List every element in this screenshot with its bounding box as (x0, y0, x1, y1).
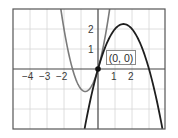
x-tick-label: −3 (39, 71, 51, 82)
y-tick-labels: 2 1 (88, 24, 94, 55)
x-tick-labels: −4 −3 −2 1 2 (22, 71, 134, 82)
curve-parabola-down (85, 24, 163, 129)
y-tick-label: 2 (88, 24, 94, 35)
x-tick-label: 2 (128, 71, 134, 82)
curve-parabola-up (61, 9, 110, 92)
point-label: (0, 0) (106, 50, 136, 65)
y-tick-label: 1 (88, 44, 94, 55)
origin-point-marker (95, 66, 101, 72)
graph: −4 −3 −2 1 2 2 1 (0, 0, 178, 138)
x-tick-label: −2 (56, 71, 68, 82)
x-tick-label: 1 (111, 71, 117, 82)
x-tick-label: −4 (22, 71, 34, 82)
